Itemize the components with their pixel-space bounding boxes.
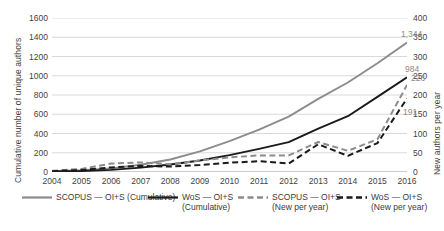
y-axis-left-tick-label: 1400 (18, 33, 48, 42)
legend-label-line-1: WoS — OI+S (182, 192, 233, 202)
y-axis-right-tick-label: 50 (413, 149, 443, 158)
x-axis-tick-label: 2016 (392, 177, 422, 186)
chart-legend: SCOPUS — OI+S (Cumulative)WoS — OI+S(Cum… (0, 192, 444, 226)
y-axis-right-tick-label: 100 (413, 130, 443, 139)
x-axis-tick-label: 2015 (362, 177, 392, 186)
y-axis-right-tick-label: 0 (413, 168, 443, 177)
legend-item-label: WoS — OI+S(Cumulative) (182, 192, 233, 212)
x-axis-tick-label: 2009 (185, 177, 215, 186)
y-axis-left-tick-label: 800 (18, 91, 48, 100)
legend-label-line-1: SCOPUS — OI+S (272, 192, 341, 202)
x-axis-tick-label: 2014 (333, 177, 363, 186)
x-axis-tick-label: 2006 (96, 177, 126, 186)
legend-label-line-2: (Cumulative) (182, 202, 233, 212)
y-axis-left-tick-label: 1000 (18, 72, 48, 81)
legend-line-swatch-icon (148, 193, 178, 202)
series-line (52, 85, 407, 171)
x-axis-tick-label: 2013 (303, 177, 333, 186)
data-label: 191 (403, 108, 417, 117)
y-axis-left-tick-label: 1600 (18, 14, 48, 23)
legend-label-line-2: (New per year) (272, 202, 341, 212)
legend-line-swatch-icon (238, 193, 268, 202)
legend-item-label: SCOPUS — OI+S(New per year) (272, 192, 341, 212)
y-axis-left-tick-label: 200 (18, 149, 48, 158)
legend-item-label: WoS — OI+S(New per year) (371, 192, 427, 212)
series-line (52, 77, 407, 171)
y-axis-left-tick-label: 400 (18, 130, 48, 139)
chart-container: Cumulative number of unique authors New … (0, 0, 444, 231)
x-axis-tick-label: 2007 (126, 177, 156, 186)
legend-label-line-2: (New per year) (371, 202, 427, 212)
y-axis-left-tick-label: 1200 (18, 53, 48, 62)
plot-area (52, 18, 407, 172)
legend-label-line-1: WoS — OI+S (371, 192, 427, 202)
y-axis-right-tick-label: 400 (413, 14, 443, 23)
x-axis-tick-label: 2004 (37, 177, 67, 186)
data-label: 1,344 (401, 30, 422, 39)
series-line (52, 43, 407, 172)
data-label: 226 (411, 74, 425, 83)
x-axis-tick-label: 2012 (274, 177, 304, 186)
y-axis-right-tick-label: 300 (413, 53, 443, 62)
legend-item[interactable]: WoS — OI+S(Cumulative) (148, 192, 233, 212)
legend-line-swatch-icon (22, 193, 52, 202)
x-axis-tick-label: 2011 (244, 177, 274, 186)
legend-item[interactable]: WoS — OI+S(New per year) (337, 192, 427, 212)
plot-svg (52, 18, 407, 172)
legend-line-swatch-icon (337, 193, 367, 202)
y-axis-left-tick-label: 600 (18, 110, 48, 119)
series-line (52, 98, 407, 171)
y-axis-right-tick-label: 200 (413, 91, 443, 100)
x-axis-tick-label: 2010 (215, 177, 245, 186)
x-axis-tick-label: 2005 (67, 177, 97, 186)
legend-item[interactable]: SCOPUS — OI+S(New per year) (238, 192, 341, 212)
x-axis-tick-label: 2008 (155, 177, 185, 186)
y-axis-right-tick-label: 150 (413, 110, 443, 119)
